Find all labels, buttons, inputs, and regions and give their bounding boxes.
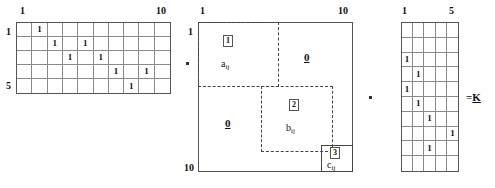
left-matrix-cell-r1-c10[interactable] [155,23,170,37]
left-matrix-cell-r5-c1[interactable] [17,79,32,93]
left-matrix-cell-r2-c10[interactable] [155,37,170,51]
right-matrix-cell-r2-c5[interactable] [447,38,458,53]
right-matrix-cell-r8-c1[interactable] [402,127,413,142]
right-matrix-cell-r3-c3[interactable] [424,53,435,68]
left-matrix-cell-r4-c9[interactable]: 1 [139,65,154,79]
right-matrix-cell-r4-c1[interactable] [402,67,413,82]
left-matrix-cell-r2-c9[interactable] [139,37,154,51]
right-matrix-cell-r2-c4[interactable] [436,38,447,53]
left-matrix-cell-r4-c4[interactable] [63,65,78,79]
right-matrix-cell-r1-c4[interactable] [436,23,447,38]
left-matrix-cell-r4-c3[interactable] [48,65,63,79]
left-matrix-cell-r4-c8[interactable] [124,65,139,79]
right-matrix-cell-r3-c1[interactable]: 1 [402,53,413,68]
right-matrix-cell-r4-c2[interactable]: 1 [413,67,424,82]
right-matrix-cell-r6-c2[interactable]: 1 [413,97,424,112]
left-matrix-cell-r3-c5[interactable] [78,51,93,65]
left-matrix-cell-r3-c7[interactable] [109,51,124,65]
right-matrix-cell-r3-c5[interactable] [447,53,458,68]
right-matrix-cell-r7-c2[interactable] [413,112,424,127]
right-matrix-cell-r7-c4[interactable] [436,112,447,127]
left-matrix-cell-r2-c2[interactable] [32,37,47,51]
right-matrix-cell-r4-c4[interactable] [436,67,447,82]
right-matrix-cell-r8-c2[interactable] [413,127,424,142]
left-matrix-cell-r1-c1[interactable] [17,23,32,37]
right-matrix-cell-r6-c3[interactable] [424,97,435,112]
right-matrix-cell-r8-c4[interactable] [436,127,447,142]
left-matrix-cell-r4-c2[interactable] [32,65,47,79]
right-matrix-cell-r6-c1[interactable] [402,97,413,112]
left-matrix-cell-r5-c10[interactable] [155,79,170,93]
right-matrix-cell-r9-c4[interactable] [436,141,447,156]
left-matrix-cell-r3-c6[interactable]: 1 [94,51,109,65]
right-matrix-cell-r10-c4[interactable] [436,156,447,171]
left-matrix-cell-r4-c10[interactable] [155,65,170,79]
left-matrix[interactable]: 11111111 [16,22,171,94]
left-matrix-cell-r1-c6[interactable] [94,23,109,37]
right-matrix-cell-r1-c3[interactable] [424,23,435,38]
right-matrix-cell-r1-c2[interactable] [413,23,424,38]
right-matrix-cell-r10-c1[interactable] [402,156,413,171]
left-matrix-cell-r5-c2[interactable] [32,79,47,93]
left-matrix-cell-r5-c5[interactable] [78,79,93,93]
left-matrix-cell-r3-c2[interactable] [32,51,47,65]
left-matrix-cell-r3-c8[interactable] [124,51,139,65]
right-matrix-cell-r1-c5[interactable] [447,23,458,38]
left-matrix-cell-r4-c7[interactable]: 1 [109,65,124,79]
left-matrix-cell-r2-c5[interactable]: 1 [78,37,93,51]
left-matrix-cell-r1-c8[interactable] [124,23,139,37]
left-matrix-cell-r1-c7[interactable] [109,23,124,37]
left-matrix-cell-r5-c8[interactable]: 1 [124,79,139,93]
left-matrix-cell-r2-c1[interactable] [17,37,32,51]
right-matrix-cell-r6-c4[interactable] [436,97,447,112]
left-matrix-cell-r2-c7[interactable] [109,37,124,51]
left-matrix-cell-r3-c9[interactable] [139,51,154,65]
right-matrix-cell-r5-c1[interactable]: 1 [402,82,413,97]
left-matrix-cell-r5-c6[interactable] [94,79,109,93]
right-matrix-cell-r9-c2[interactable] [413,141,424,156]
right-matrix-cell-r5-c3[interactable] [424,82,435,97]
left-matrix-cell-r1-c4[interactable] [63,23,78,37]
right-matrix-cell-r8-c3[interactable] [424,127,435,142]
right-matrix-cell-r3-c2[interactable] [413,53,424,68]
right-matrix-cell-r2-c3[interactable] [424,38,435,53]
block-1-region[interactable] [198,22,279,87]
left-matrix-cell-r5-c9[interactable] [139,79,154,93]
right-matrix-cell-r7-c5[interactable] [447,112,458,127]
left-matrix-cell-r1-c2[interactable]: 1 [32,23,47,37]
right-matrix-cell-r10-c2[interactable] [413,156,424,171]
left-matrix-cell-r5-c4[interactable] [63,79,78,93]
right-matrix-cell-r9-c3[interactable]: 1 [424,141,435,156]
right-matrix-cell-r9-c1[interactable] [402,141,413,156]
right-matrix-cell-r2-c1[interactable] [402,38,413,53]
left-matrix-cell-r4-c6[interactable] [94,65,109,79]
right-matrix-cell-r7-c3[interactable]: 1 [424,112,435,127]
left-matrix-cell-r4-c5[interactable] [78,65,93,79]
right-matrix-cell-r10-c5[interactable] [447,156,458,171]
right-matrix-cell-r6-c5[interactable] [447,97,458,112]
right-matrix-cell-r4-c3[interactable] [424,67,435,82]
middle-matrix[interactable]: 1 aij 2 bij 3 cij 0 0 [198,22,353,172]
left-matrix-cell-r2-c3[interactable]: 1 [48,37,63,51]
left-matrix-cell-r3-c1[interactable] [17,51,32,65]
left-matrix-cell-r1-c9[interactable] [139,23,154,37]
right-matrix[interactable]: 1111111 [401,22,459,172]
left-matrix-cell-r4-c1[interactable] [17,65,32,79]
left-matrix-cell-r3-c3[interactable] [48,51,63,65]
left-matrix-cell-r1-c3[interactable] [48,23,63,37]
right-matrix-cell-r1-c1[interactable] [402,23,413,38]
right-matrix-cell-r3-c4[interactable] [436,53,447,68]
right-matrix-cell-r5-c4[interactable] [436,82,447,97]
left-matrix-cell-r3-c10[interactable] [155,51,170,65]
right-matrix-cell-r2-c2[interactable] [413,38,424,53]
left-matrix-cell-r2-c6[interactable] [94,37,109,51]
right-matrix-cell-r5-c5[interactable] [447,82,458,97]
block-2-region[interactable] [261,86,333,152]
right-matrix-cell-r7-c1[interactable] [402,112,413,127]
left-matrix-cell-r2-c8[interactable] [124,37,139,51]
right-matrix-cell-r8-c5[interactable]: 1 [447,127,458,142]
left-matrix-cell-r1-c5[interactable] [78,23,93,37]
left-matrix-cell-r3-c4[interactable]: 1 [63,51,78,65]
left-matrix-cell-r5-c3[interactable] [48,79,63,93]
right-matrix-cell-r10-c3[interactable] [424,156,435,171]
